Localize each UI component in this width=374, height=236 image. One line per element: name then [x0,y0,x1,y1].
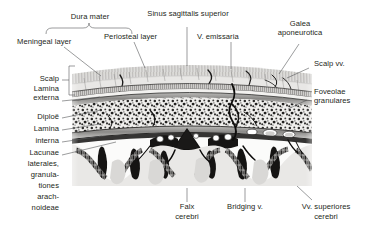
label-sinus-sagittalis-superior: Sinus sagittalis superior [127,10,249,19]
label-lamina-externa-line2: externa [0,94,59,103]
label-lacunae-line4: tiones [0,182,59,191]
label-lamina-interna-line1: Lamina [0,125,59,134]
label-bridging-v: Bridging v. [214,203,276,212]
label-scalp-vv: Scalp vv. [314,60,345,69]
label-lacunae-line6: noideae [0,204,59,213]
label-foveolae-granulares-line2: granulares [314,97,350,106]
label-scalp: Scalp [0,75,59,84]
label-lacunae-line5: arach- [0,193,59,202]
label-v-emissaria: V. emissaria [197,33,239,42]
label-vv-superiores-cerebri-line1: Vv. superiores [282,203,370,212]
anatomy-figure: Dura mater Sinus sagittalis superior Gal… [0,0,374,236]
label-lacunae-line1: Lacunae [0,149,59,158]
label-falx-cerebri-line1: Falx [157,203,217,212]
label-lamina-interna-line2: interna [0,137,59,146]
label-meningeal-layer: Meningeal layer [17,38,71,47]
label-lacunae-line3: granula- [0,171,59,180]
label-diploe: Diploë [0,113,59,122]
label-falx-cerebri-line2: cerebri [157,213,217,222]
label-vv-superiores-cerebri-line2: cerebri [282,213,370,222]
label-galea-aponeurotica-line2: aponeurotica [265,29,335,38]
label-dura-mater: Dura mater [52,13,128,22]
label-lacunae-line2: laterales, [0,160,59,169]
label-periosteal-layer: Periosteal layer [104,33,157,42]
